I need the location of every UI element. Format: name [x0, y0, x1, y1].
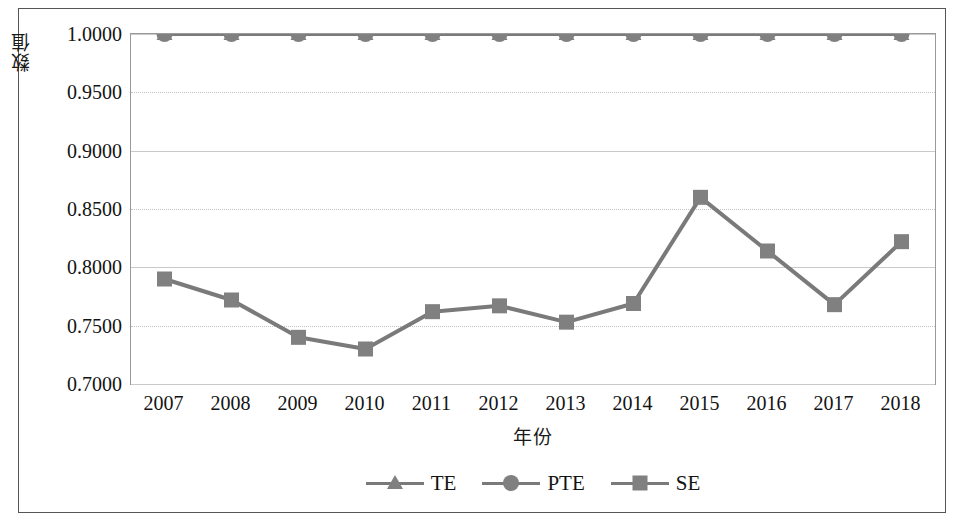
square-marker-icon [626, 296, 641, 311]
triangle-marker-icon [366, 473, 424, 493]
circle-marker-icon [559, 34, 575, 42]
square-marker-icon [693, 190, 708, 205]
triangle-marker-icon [366, 473, 424, 493]
y-tick-label: 0.8000 [30, 257, 122, 277]
circle-marker-icon [492, 34, 508, 42]
y-tick-label: 0.7500 [30, 316, 122, 336]
y-tick-label: 0.8500 [30, 199, 122, 219]
circle-marker-icon [760, 34, 776, 42]
chart-legend: TEPTESE [130, 466, 936, 500]
legend-label: SE [676, 473, 701, 494]
x-axis-tick-labels: 2007200820092010201120122013201420152016… [130, 393, 936, 423]
square-marker-icon [224, 293, 239, 308]
chart-page: 数值 1.00000.95000.90000.85000.80000.75000… [0, 0, 957, 531]
circle-marker-icon [482, 473, 540, 493]
circle-marker-icon [358, 34, 374, 42]
circle-marker-icon [503, 475, 519, 491]
gridline [131, 384, 935, 385]
square-marker-icon [611, 473, 669, 493]
triangle-marker-icon [387, 475, 403, 489]
circle-marker-icon [894, 34, 910, 42]
series-line [165, 197, 902, 349]
y-axis-tick-labels: 1.00000.95000.90000.85000.80000.75000.70… [22, 33, 122, 385]
circle-marker-icon [291, 34, 307, 42]
square-marker-icon [894, 234, 909, 249]
legend-label: TE [431, 473, 457, 494]
series-se [157, 190, 909, 357]
square-marker-icon [492, 298, 507, 313]
square-marker-icon [157, 272, 172, 287]
x-tick-label: 2018 [861, 393, 941, 413]
square-marker-icon [358, 342, 373, 357]
square-marker-icon [559, 315, 574, 330]
circle-marker-icon [626, 34, 642, 42]
circle-marker-icon [693, 34, 709, 42]
y-tick-label: 0.9000 [30, 141, 122, 161]
legend-item-pte[interactable]: PTE [482, 473, 584, 494]
y-tick-label: 1.0000 [30, 24, 122, 44]
series-pte [157, 34, 910, 42]
square-marker-icon [611, 473, 669, 493]
x-axis-title: 年份 [130, 428, 936, 447]
square-marker-icon [760, 244, 775, 259]
circle-marker-icon [482, 473, 540, 493]
legend-item-se[interactable]: SE [611, 473, 701, 494]
y-tick-label: 0.9500 [30, 82, 122, 102]
square-marker-icon [632, 476, 647, 491]
circle-marker-icon [224, 34, 240, 42]
circle-marker-icon [827, 34, 843, 42]
plot-area [130, 33, 936, 385]
circle-marker-icon [157, 34, 173, 42]
square-marker-icon [291, 330, 306, 345]
series-layer [131, 34, 935, 384]
legend-label: PTE [547, 473, 584, 494]
legend-item-te[interactable]: TE [366, 473, 457, 494]
y-tick-label: 0.7000 [30, 374, 122, 394]
square-marker-icon [827, 297, 842, 312]
square-marker-icon [425, 304, 440, 319]
circle-marker-icon [425, 34, 441, 42]
